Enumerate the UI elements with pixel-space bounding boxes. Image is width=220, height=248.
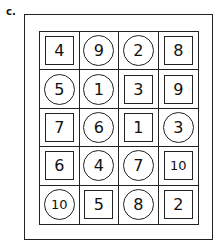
grid-cell: 6	[80, 109, 120, 147]
grid-cell: 8	[159, 32, 199, 70]
circle-number: 10	[44, 189, 75, 220]
square-number: 9	[164, 75, 193, 104]
square-number: 5	[84, 190, 113, 219]
grid-cell: 5	[40, 70, 80, 108]
grid-cell: 1	[80, 70, 120, 108]
grid-cell: 10	[40, 186, 80, 224]
square-number: 8	[164, 36, 193, 65]
circle-number: 8	[123, 189, 154, 220]
square-number: 4	[45, 36, 74, 65]
square-number: 3	[124, 75, 153, 104]
circle-number: 7	[123, 150, 154, 181]
grid-cell: 1	[119, 109, 159, 147]
grid-cell: 7	[119, 147, 159, 185]
grid-cell: 6	[40, 147, 80, 185]
square-number: 1	[124, 113, 153, 142]
grid-cell: 3	[159, 109, 199, 147]
grid-cell: 5	[80, 186, 120, 224]
grid-cell: 8	[119, 186, 159, 224]
grid-cell: 2	[159, 186, 199, 224]
circle-number: 6	[83, 112, 114, 143]
grid-cell: 9	[159, 70, 199, 108]
circle-number: 3	[163, 112, 194, 143]
circle-number: 1	[83, 74, 114, 105]
grid-cell: 10	[159, 147, 199, 185]
number-grid: 4928513976136471010582	[39, 31, 199, 225]
square-number: 10	[164, 151, 193, 180]
circle-number: 2	[123, 35, 154, 66]
circle-number: 9	[83, 35, 114, 66]
figure-label: c.	[6, 6, 16, 17]
circle-number: 5	[44, 74, 75, 105]
square-number: 6	[45, 151, 74, 180]
circle-number: 4	[83, 150, 114, 181]
grid-cell: 3	[119, 70, 159, 108]
square-number: 2	[164, 190, 193, 219]
square-number: 7	[45, 113, 74, 142]
grid-cell: 7	[40, 109, 80, 147]
grid-cell: 4	[40, 32, 80, 70]
grid-cell: 4	[80, 147, 120, 185]
grid-cell: 9	[80, 32, 120, 70]
grid-cell: 2	[119, 32, 159, 70]
